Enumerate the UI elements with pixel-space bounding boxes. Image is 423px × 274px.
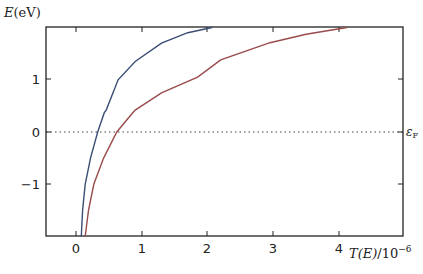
- x-tick-label: 2: [203, 241, 211, 256]
- fermi-level-label: εF: [406, 125, 418, 140]
- y-tick-label: −1: [21, 177, 40, 192]
- chart: 0 1 2 3 4 1 0 −1 E(eV) T(E)/10−6 εF: [0, 0, 423, 274]
- x-tick-label: 1: [138, 241, 146, 256]
- x-tick-label: 4: [335, 241, 343, 256]
- x-ticks: [76, 27, 339, 236]
- y-tick-label: 0: [32, 125, 40, 140]
- y-tick-label: 1: [32, 72, 40, 87]
- y-axis-label: E(eV): [3, 5, 41, 20]
- x-axis-label: T(E)/10−6: [349, 244, 412, 261]
- x-tick-label: 0: [72, 241, 80, 256]
- x-tick-label: 3: [269, 241, 277, 256]
